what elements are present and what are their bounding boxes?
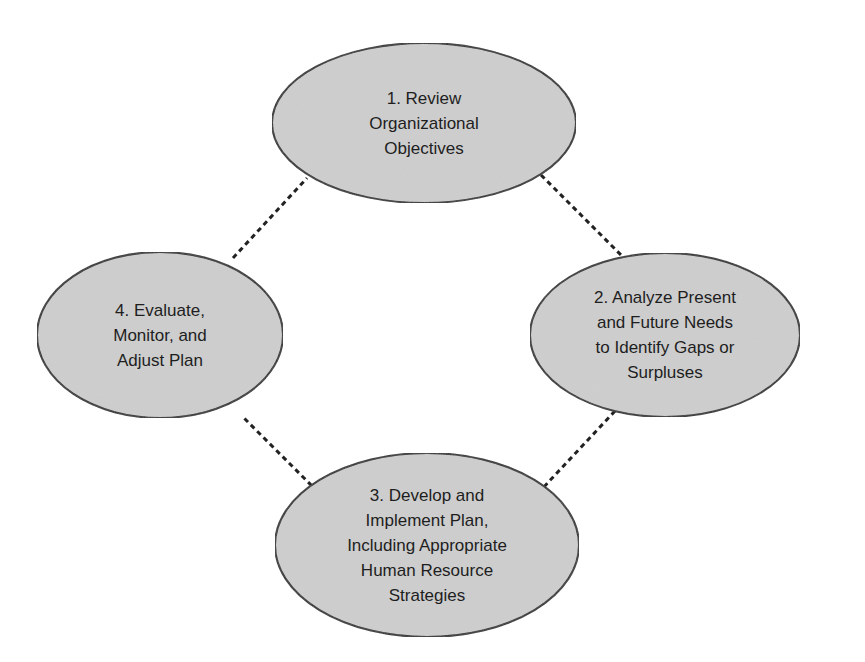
diagram-canvas (0, 0, 865, 662)
node-layer (37, 43, 800, 637)
hr-planning-cycle-diagram: 1. ReviewOrganizationalObjectives2. Anal… (0, 0, 865, 662)
step-3-ellipse (275, 453, 579, 637)
step-1-ellipse (272, 43, 576, 203)
dashed-connector-2-to-3 (541, 411, 615, 490)
dashed-connector-3-to-4 (242, 416, 318, 492)
dashed-connector-1-to-2 (541, 175, 623, 257)
dashed-connector-4-to-1 (233, 178, 307, 258)
step-4-ellipse (37, 252, 283, 418)
step-2-ellipse (530, 253, 800, 417)
